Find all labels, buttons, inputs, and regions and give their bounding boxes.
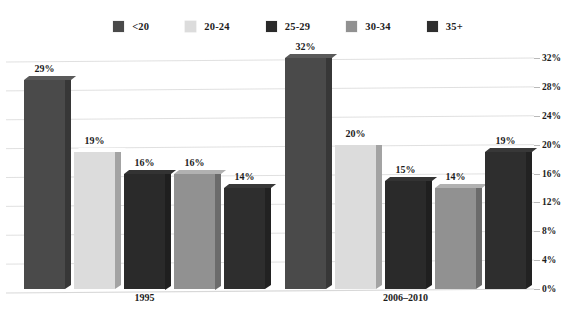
bar-front-face [285, 58, 326, 289]
bars-layer: 29%19%16%16%14%32%20%15%14%19%19952006–2… [0, 40, 576, 321]
bar-side-face [265, 184, 271, 289]
bar-value-label: 14% [446, 171, 466, 182]
legend-label: 25-29 [285, 21, 311, 32]
y-axis-tick-mark [534, 231, 540, 232]
bar-value-label: 19% [496, 135, 516, 146]
bar[interactable]: 16% [124, 174, 165, 290]
bar-side-face [526, 148, 532, 289]
bar-value-label: 15% [396, 164, 416, 175]
bar-front-face [435, 188, 476, 289]
bar-front-face [224, 188, 265, 289]
bar-value-label: 29% [35, 63, 55, 74]
bar-top-face [74, 148, 126, 152]
legend-item-35-[interactable]: 35+ [427, 21, 463, 32]
legend-item-20-24[interactable]: 20-24 [185, 21, 230, 32]
bar-front-face [124, 174, 165, 290]
y-axis-tick-mark [534, 289, 540, 290]
legend-swatch-icon [185, 21, 196, 32]
bar-front-face [385, 181, 426, 289]
bar-value-label: 16% [185, 157, 205, 168]
y-axis-tick-label: 28% [542, 82, 561, 92]
legend-label: 35+ [446, 21, 463, 32]
y-axis-tick-label: 12% [542, 197, 561, 207]
bar-top-face [385, 177, 437, 181]
group-label-second: 2006–2010 [383, 292, 428, 303]
plot-area: 29%19%16%16%14%32%20%15%14%19%19952006–2… [0, 40, 576, 321]
bar-value-label: 16% [135, 157, 155, 168]
bar[interactable]: 20% [335, 145, 376, 289]
y-axis-tick-mark [534, 116, 540, 117]
y-axis-tick-mark [534, 260, 540, 261]
y-axis-tick-mark [534, 87, 540, 88]
bar-front-face [174, 174, 215, 290]
bar-side-face [476, 184, 482, 289]
legend-label: 30-34 [365, 21, 391, 32]
legend-swatch-icon [346, 21, 357, 32]
bar[interactable]: 16% [174, 174, 215, 290]
bar[interactable]: 19% [485, 152, 526, 289]
bar-side-face [426, 177, 432, 289]
bar-value-label: 32% [296, 41, 316, 52]
bar[interactable]: 19% [74, 152, 115, 289]
legend-item-25-29[interactable]: 25-29 [266, 21, 311, 32]
y-axis-tick-label: 0% [542, 284, 556, 294]
legend-item--20[interactable]: <20 [113, 21, 149, 32]
bar[interactable]: 15% [385, 181, 426, 289]
legend-label: 20-24 [204, 21, 230, 32]
chart-root: <2020-2425-2930-3435+ 29%19%16%16%14%32%… [0, 0, 576, 321]
legend-swatch-icon [266, 21, 277, 32]
y-axis: 0%4%8%12%16%20%24%28%32% [534, 40, 576, 321]
bar-top-face [285, 54, 337, 58]
bar-top-face [224, 184, 276, 188]
bar-top-face [174, 170, 226, 174]
y-axis-tick-label: 20% [542, 140, 561, 150]
bar-top-face [435, 184, 487, 188]
bar[interactable]: 14% [435, 188, 476, 289]
y-axis-tick-mark [534, 145, 540, 146]
bar-front-face [335, 145, 376, 289]
bar-top-face [485, 148, 537, 152]
y-axis-tick-label: 4% [542, 255, 556, 265]
bar-side-face [376, 141, 382, 289]
bar-value-label: 20% [346, 128, 366, 139]
y-axis-tick-label: 32% [542, 53, 561, 63]
bar-side-face [215, 169, 221, 289]
bar[interactable]: 14% [224, 188, 265, 289]
legend-swatch-icon [113, 21, 124, 32]
bar[interactable]: 29% [24, 80, 65, 289]
bar-side-face [65, 76, 71, 289]
y-axis-tick-mark [534, 202, 540, 203]
bar-side-face [165, 169, 171, 289]
bar-side-face [326, 54, 332, 289]
legend-swatch-icon [427, 21, 438, 32]
bar-value-label: 14% [235, 171, 255, 182]
bar[interactable]: 32% [285, 58, 326, 289]
y-axis-tick-mark [534, 58, 540, 59]
bar-top-face [124, 170, 176, 174]
bar-value-label: 19% [85, 135, 105, 146]
y-axis-tick-mark [534, 174, 540, 175]
bar-front-face [485, 152, 526, 289]
legend-label: <20 [132, 21, 149, 32]
group-label-first: 1995 [135, 292, 155, 303]
legend-item-30-34[interactable]: 30-34 [346, 21, 391, 32]
chart-legend: <2020-2425-2930-3435+ [0, 14, 576, 38]
y-axis-tick-label: 8% [542, 226, 556, 236]
y-axis-tick-label: 16% [542, 169, 561, 179]
y-axis-tick-label: 24% [542, 111, 561, 121]
bar-front-face [24, 80, 65, 289]
bar-side-face [115, 148, 121, 289]
bar-front-face [74, 152, 115, 289]
bar-top-face [24, 76, 76, 80]
bar-top-face [335, 141, 387, 145]
